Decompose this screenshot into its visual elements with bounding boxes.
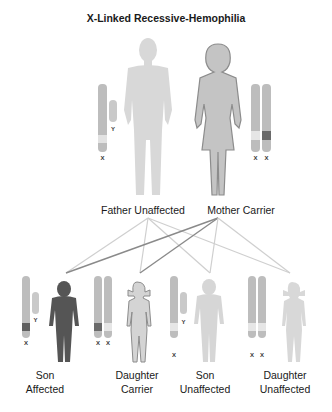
father-label: Father Unaffected bbox=[88, 203, 198, 217]
daughter-carrier-figure bbox=[127, 282, 151, 362]
svg-text:X: X bbox=[100, 155, 104, 161]
son-unaffected-figure bbox=[194, 279, 224, 362]
svg-text:X: X bbox=[172, 352, 176, 358]
daughter-unaffected-chromosomes: X X bbox=[248, 276, 266, 358]
inheritance-lines bbox=[66, 218, 290, 273]
svg-text:X: X bbox=[96, 340, 100, 346]
son-affected-label: Son Affected bbox=[10, 368, 80, 396]
father-figure bbox=[124, 38, 172, 195]
svg-text:X: X bbox=[106, 340, 110, 346]
svg-text:X: X bbox=[264, 155, 268, 161]
svg-text:X: X bbox=[260, 352, 264, 358]
daughter-unaffected-figure bbox=[282, 282, 306, 362]
mother-chromosomes: X X bbox=[251, 84, 271, 161]
svg-text:Y: Y bbox=[181, 319, 185, 325]
svg-text:Y: Y bbox=[33, 317, 37, 323]
son-affected-chromosomes: X Y bbox=[22, 276, 39, 346]
father-chromosomes: X Y bbox=[98, 84, 117, 161]
son-affected-figure bbox=[49, 281, 79, 362]
son-unaffected-label: Son Unaffected bbox=[165, 368, 245, 396]
daughter-carrier-chromosomes: X X bbox=[94, 276, 112, 346]
svg-text:X: X bbox=[250, 352, 254, 358]
mother-label: Mother Carrier bbox=[196, 203, 286, 217]
svg-text:X: X bbox=[253, 155, 257, 161]
son-unaffected-chromosomes: X Y bbox=[170, 276, 187, 358]
svg-text:X: X bbox=[24, 340, 28, 346]
svg-text:Y: Y bbox=[111, 126, 115, 132]
mother-figure bbox=[195, 44, 241, 195]
daughter-unaffected-label: Daughter Unaffected bbox=[245, 368, 325, 396]
